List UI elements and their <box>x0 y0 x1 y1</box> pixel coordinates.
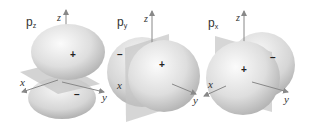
orbital-label: py <box>117 15 128 30</box>
orbital-pz: pz z x y + – <box>19 10 107 119</box>
positive-sign: + <box>159 59 165 70</box>
x-axis-label: x <box>207 78 213 90</box>
y-axis-label: y <box>192 94 198 106</box>
x-axis-label: x <box>19 76 25 88</box>
positive-lobe <box>31 24 105 80</box>
orbital-py: py z x y + – <box>107 11 200 122</box>
z-axis-label: z <box>143 13 148 24</box>
positive-lobe <box>128 40 200 112</box>
negative-sign: – <box>117 49 123 60</box>
p-orbitals-diagram: pz z x y + – py z x y + – px z <box>0 0 309 126</box>
x-axis-label: x <box>116 79 122 91</box>
y-axis-label: y <box>101 91 107 103</box>
positive-sign: + <box>70 49 76 60</box>
orbital-px: px z x y + – <box>204 11 295 115</box>
y-axis-label: y <box>283 93 289 105</box>
z-axis-label: z <box>56 12 61 23</box>
negative-sign: – <box>270 52 276 63</box>
orbital-label: pz <box>26 15 37 29</box>
negative-sign: – <box>74 89 80 100</box>
positive-lobe <box>206 41 280 115</box>
orbital-label: px <box>208 16 219 30</box>
positive-sign: + <box>241 64 247 75</box>
z-axis-label: z <box>235 12 240 23</box>
